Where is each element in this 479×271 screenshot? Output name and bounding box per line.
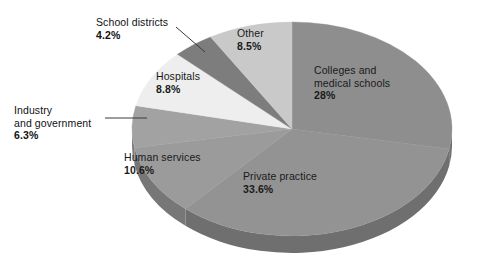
slice-label-percent: 6.3%	[14, 129, 91, 142]
slice-label-name-line2: medical schools	[314, 77, 390, 90]
pie-top-surface	[132, 22, 452, 236]
pie-chart-figure: School districts 4.2% Other 8.5% College…	[0, 0, 479, 271]
slice-label-human-services: Human services 10.6%	[124, 151, 201, 176]
slice-label-other: Other 8.5%	[237, 27, 264, 52]
slice-label-name: Other	[237, 27, 264, 40]
slice-label-colleges-and-medical-schools: Colleges and medical schools 28%	[314, 64, 390, 102]
slice-label-name-line1: Colleges and	[314, 64, 390, 77]
slice-label-school-districts: School districts 4.2%	[96, 16, 168, 41]
slice-label-industry-and-government: Industry and government 6.3%	[14, 104, 91, 142]
slice-label-percent: 10.6%	[124, 164, 201, 177]
slice-label-percent: 8.5%	[237, 40, 264, 53]
slice-label-private-practice: Private practice 33.6%	[243, 170, 317, 195]
slice-label-percent: 33.6%	[243, 183, 317, 196]
slice-label-name: Private practice	[243, 170, 317, 183]
slice-label-percent: 8.8%	[156, 83, 200, 96]
slice-label-name-line2: and government	[14, 117, 91, 130]
slice-label-name-line1: Industry	[14, 104, 91, 117]
slice-label-hospitals: Hospitals 8.8%	[156, 70, 200, 95]
slice-label-percent: 28%	[314, 89, 390, 102]
slice-label-name: Hospitals	[156, 70, 200, 83]
slice-label-name: Human services	[124, 151, 201, 164]
slice-label-name: School districts	[96, 16, 168, 29]
slice-label-percent: 4.2%	[96, 29, 168, 42]
